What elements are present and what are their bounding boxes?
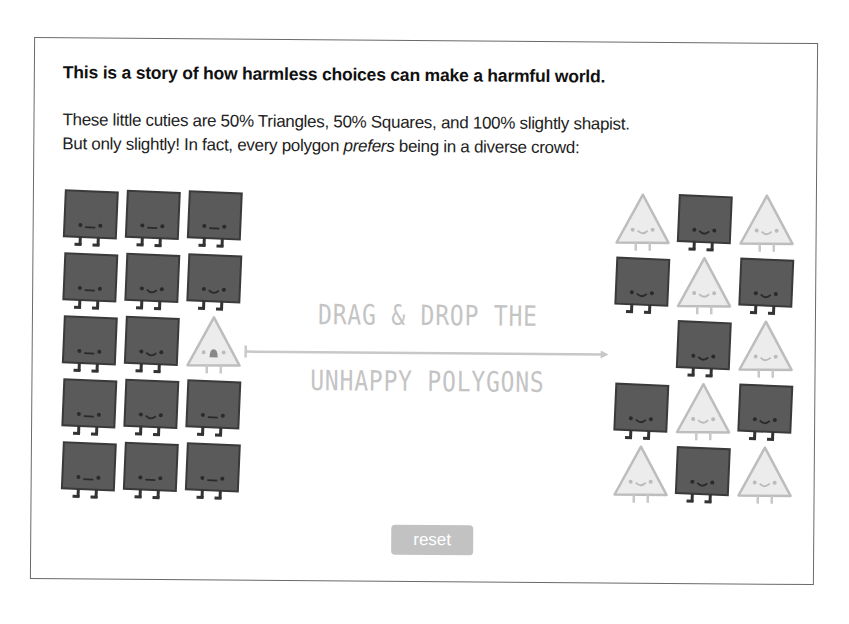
square-happy-icon[interactable]: [736, 382, 794, 444]
triangle-happy-icon[interactable]: [611, 444, 669, 506]
reset-button[interactable]: reset: [391, 525, 473, 556]
square-happy-icon[interactable]: [123, 252, 181, 314]
story-line-2: But only slightly! In fact, every polygo…: [62, 132, 629, 160]
triangle-unhappy-icon[interactable]: [184, 315, 242, 377]
square-happy-icon[interactable]: [122, 378, 180, 440]
square-happy-icon[interactable]: [675, 193, 733, 255]
square-happy-icon[interactable]: [612, 381, 670, 443]
square-meh-icon[interactable]: [60, 314, 118, 376]
story-title: This is a story of how harmless choices …: [63, 62, 605, 87]
triangle-happy-icon[interactable]: [613, 192, 671, 254]
square-happy-icon[interactable]: [673, 445, 731, 507]
square-meh-icon[interactable]: [183, 441, 241, 503]
square-meh-icon[interactable]: [59, 440, 117, 502]
triangle-happy-icon[interactable]: [674, 382, 732, 444]
square-happy-icon[interactable]: [185, 252, 243, 314]
emphasis-prefers: prefers: [344, 136, 395, 155]
square-happy-icon[interactable]: [737, 256, 795, 318]
square-happy-icon[interactable]: [613, 255, 671, 317]
square-meh-icon[interactable]: [123, 189, 181, 251]
square-meh-icon[interactable]: [185, 189, 243, 251]
instruction-line-1: DRAG & DROP THE: [284, 298, 571, 333]
square-meh-icon[interactable]: [61, 188, 119, 250]
triangle-happy-icon[interactable]: [737, 193, 795, 255]
square-meh-icon[interactable]: [60, 377, 118, 439]
triangle-happy-icon[interactable]: [675, 256, 733, 318]
sandbox-panel: This is a story of how harmless choices …: [30, 37, 818, 585]
square-meh-icon[interactable]: [184, 378, 242, 440]
story-paragraph: These little cuties are 50% Triangles, 5…: [62, 108, 630, 160]
square-happy-icon[interactable]: [122, 315, 180, 377]
square-meh-icon[interactable]: [61, 251, 119, 313]
empty-slot: [612, 318, 670, 380]
square-meh-icon[interactable]: [121, 441, 179, 503]
triangle-happy-icon[interactable]: [735, 445, 793, 507]
drag-arrow-icon: [243, 345, 609, 362]
square-happy-icon[interactable]: [674, 319, 732, 381]
triangle-happy-icon[interactable]: [736, 319, 794, 381]
instruction-line-2: UNHAPPY POLYGONS: [284, 364, 571, 399]
